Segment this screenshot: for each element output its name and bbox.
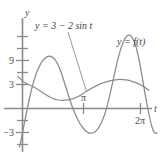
y-axis-label: y — [24, 7, 30, 18]
y-tick-label-3: 3 — [9, 79, 14, 90]
graph-figure: y t 9 3 −3 π 2π y = 3 − 2 sin t y = f(t) — [0, 0, 165, 165]
f-curve-label-text: y = f(t) — [116, 36, 146, 48]
f-curve-label: y = f(t) — [116, 36, 146, 48]
sine-curve-label: y = 3 − 2 sin t — [34, 20, 93, 31]
x-tick-label-pi: π — [81, 92, 86, 103]
x-tick-label-2pi: 2π — [135, 115, 145, 126]
plot-canvas: y t 9 3 −3 π 2π y = 3 − 2 sin t y = f(t) — [0, 0, 165, 165]
sine-label-leader-line — [68, 32, 87, 92]
sine-curve-label-text: y = 3 − 2 sin t — [34, 20, 93, 31]
y-tick-label-9: 9 — [9, 55, 14, 66]
x-axis-label: t — [154, 103, 157, 114]
y-tick-label-neg3: −3 — [3, 127, 14, 138]
